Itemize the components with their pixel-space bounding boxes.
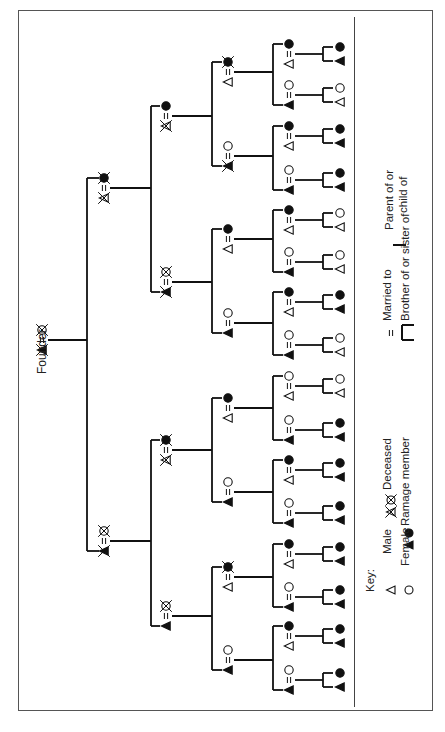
married-sign xyxy=(102,538,105,544)
married-sign xyxy=(287,177,290,183)
married-sign xyxy=(287,133,290,139)
key-male-label: Male xyxy=(381,529,393,554)
triangle-filled-icon xyxy=(284,186,293,194)
circle-filled-icon xyxy=(285,540,293,548)
married-sign xyxy=(226,489,229,495)
triangle-open-icon xyxy=(284,642,293,650)
triangle-filled-deceased-icon xyxy=(222,160,234,172)
circle-open-icon xyxy=(224,646,232,654)
circle-filled-icon xyxy=(285,40,293,48)
married-sign xyxy=(287,467,290,473)
triangle-filled-icon xyxy=(335,139,344,147)
circle-open-icon xyxy=(224,309,232,317)
triangle-filled-icon xyxy=(284,101,293,109)
married-sign xyxy=(226,153,229,159)
circle-filled-deceased-icon xyxy=(98,172,110,184)
key-married-label: Married to xyxy=(381,269,393,321)
circle-open-icon xyxy=(405,586,413,594)
circle-open-icon xyxy=(285,666,293,674)
triangle-filled-icon xyxy=(335,305,344,313)
triangle-open-icon xyxy=(335,98,344,106)
circle-filled-icon xyxy=(285,206,293,214)
married-sign xyxy=(226,236,229,242)
married-sign xyxy=(226,657,229,663)
circle-open-icon xyxy=(336,334,344,342)
circle-filled-icon xyxy=(224,394,232,402)
married-sign xyxy=(287,594,290,600)
married-sign xyxy=(287,633,290,639)
married-sign xyxy=(287,677,290,683)
key-female-label: Female xyxy=(399,528,411,566)
triangle-open-icon xyxy=(284,226,293,234)
circle-filled-icon xyxy=(336,125,344,133)
key-parent-label-2: child of xyxy=(397,177,409,213)
circle-open-icon xyxy=(285,166,293,174)
triangle-open-icon xyxy=(284,560,293,568)
triangle-open-icon xyxy=(284,60,293,68)
circle-open-icon xyxy=(336,251,344,259)
founder-label: Founder xyxy=(35,329,49,374)
circle-open-icon xyxy=(224,478,232,486)
circle-filled-icon xyxy=(285,122,293,130)
triangle-filled-icon xyxy=(284,351,293,359)
triangle-filled-icon xyxy=(223,498,232,506)
circle-filled-icon xyxy=(336,543,344,551)
circle-filled-icon xyxy=(336,43,344,51)
circle-open-icon xyxy=(285,331,293,339)
triangle-open-icon xyxy=(284,308,293,316)
triangle-filled-icon xyxy=(335,683,344,691)
triangle-open-icon xyxy=(284,392,293,400)
circle-filled-icon xyxy=(336,625,344,633)
married-sign xyxy=(226,405,229,411)
married-sign xyxy=(287,427,290,433)
circle-filled-icon xyxy=(336,669,344,677)
triangle-filled-icon xyxy=(335,600,344,608)
circle-filled-icon xyxy=(336,502,344,510)
married-sign xyxy=(164,113,167,119)
circle-filled-icon xyxy=(285,456,293,464)
circle-open-icon xyxy=(285,81,293,89)
key-parent-label-1: Parent of or xyxy=(383,170,395,230)
triangle-filled-icon xyxy=(223,666,232,674)
circle-filled-icon xyxy=(336,459,344,467)
triangle-filled-icon xyxy=(161,622,170,630)
triangle-filled-icon xyxy=(223,329,232,337)
married-sign xyxy=(226,574,229,580)
married-sign xyxy=(287,510,290,516)
triangle-filled-icon xyxy=(284,686,293,694)
triangle-open-deceased-icon xyxy=(385,506,396,517)
circle-open-icon xyxy=(285,416,293,424)
married-sign xyxy=(389,330,392,336)
triangle-open-icon xyxy=(223,414,232,422)
married-sign xyxy=(287,342,290,348)
triangle-filled-icon xyxy=(335,183,344,191)
triangle-filled-icon xyxy=(335,433,344,441)
married-sign xyxy=(226,320,229,326)
circle-open-icon xyxy=(224,142,232,150)
circle-filled-deceased-icon xyxy=(222,561,234,573)
triangle-open-deceased-icon xyxy=(98,192,110,204)
circle-open-icon xyxy=(285,499,293,507)
circle-open-icon xyxy=(336,84,344,92)
triangle-open-icon xyxy=(387,586,396,594)
triangle-open-icon xyxy=(223,78,232,86)
triangle-open-icon xyxy=(223,245,232,253)
triangle-filled-icon xyxy=(335,473,344,481)
key-heading: Key: xyxy=(364,569,376,592)
circle-filled-icon xyxy=(336,586,344,594)
triangle-open-icon xyxy=(335,223,344,231)
married-sign xyxy=(226,69,229,75)
married-sign xyxy=(164,613,167,619)
ramage-tree xyxy=(0,0,445,732)
triangle-open-icon xyxy=(284,476,293,484)
triangle-filled-icon xyxy=(284,436,293,444)
triangle-open-icon xyxy=(335,389,344,397)
married-sign xyxy=(287,383,290,389)
key-ramage-member-label: Ramage member xyxy=(399,437,411,526)
triangle-open-icon xyxy=(284,142,293,150)
circle-filled-icon xyxy=(285,622,293,630)
circle-filled-deceased-icon xyxy=(222,56,234,68)
circle-open-icon xyxy=(285,583,293,591)
circle-open-deceased-icon xyxy=(385,494,396,505)
triangle-filled-icon xyxy=(284,519,293,527)
